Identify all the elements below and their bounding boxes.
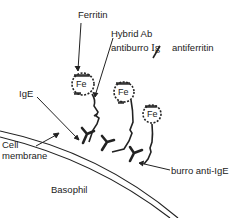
fe-label: Fe: [147, 109, 158, 119]
ig-text: Ig: [151, 42, 160, 53]
cell-membrane-label-line1: Cell: [2, 139, 18, 150]
antiferritin-text: antiferritin: [172, 42, 214, 53]
fe-label: Fe: [76, 79, 87, 89]
ige-icon: [82, 128, 142, 161]
ige-label: IgE: [19, 88, 33, 99]
hybrid-ab-detail-label: antiburro Igantiferritin: [111, 42, 214, 53]
cell-membrane-label-line2: membrane: [2, 150, 47, 161]
antiburro-text: antiburro: [111, 42, 151, 53]
burro-anti-ige-label: burro anti-IgE: [171, 165, 229, 176]
hybrid-ab-label: Hybrid Ab: [111, 28, 152, 39]
basophil-label: Basophil: [51, 184, 87, 195]
fe-label: Fe: [118, 87, 129, 97]
basophil-ferritin-diagram: Ferritin Hybrid Ab antiburro Igantiferri…: [0, 0, 241, 218]
ferritin-label: Ferritin: [78, 9, 108, 20]
